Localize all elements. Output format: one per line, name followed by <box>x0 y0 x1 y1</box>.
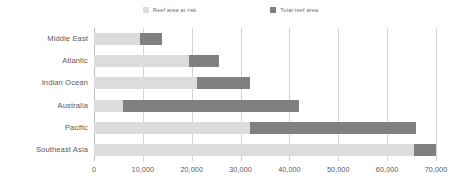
x-axis-tick-label: 20,000 <box>180 165 203 174</box>
legend-label: Reef area at risk <box>153 7 197 13</box>
bar-group <box>94 72 436 94</box>
bar-reef-area-at-risk[interactable] <box>94 55 189 67</box>
legend-swatch-icon <box>143 7 149 13</box>
bar-group <box>94 50 436 72</box>
x-axis-tick-label: 60,000 <box>376 165 399 174</box>
y-axis-labels: Middle EastAtlanticIndian OceanAustralia… <box>0 28 88 161</box>
x-axis-tick-label: 40,000 <box>278 165 301 174</box>
bar-reef-area-at-risk[interactable] <box>94 77 197 89</box>
legend-item-reef-area-at-risk[interactable]: Reef area at risk <box>143 7 197 13</box>
y-axis-tick-label: Indian Ocean <box>42 78 88 87</box>
bar-reef-area-at-risk[interactable] <box>94 100 123 112</box>
x-axis-tick-label: 50,000 <box>327 165 350 174</box>
x-axis-tick-label: 30,000 <box>229 165 252 174</box>
y-axis-tick-label: Atlantic <box>62 56 88 65</box>
y-axis-tick-label: Pacific <box>65 123 88 132</box>
bar-group <box>94 139 436 161</box>
bar-reef-area-at-risk[interactable] <box>94 144 414 156</box>
legend-swatch-icon <box>270 7 276 13</box>
legend-item-total-reef-area[interactable]: Total reef area <box>270 7 318 13</box>
y-axis-tick-label: Southeast Asia <box>36 145 88 154</box>
bar-reef-area-at-risk[interactable] <box>94 122 250 134</box>
bar-group <box>94 95 436 117</box>
bar-chart: Reef area at risk Total reef area Middle… <box>0 0 461 192</box>
bar-group <box>94 117 436 139</box>
x-axis-tick-label: 10,000 <box>132 165 155 174</box>
bar-total-reef-area[interactable] <box>94 100 299 112</box>
bar-reef-area-at-risk[interactable] <box>94 33 140 45</box>
y-axis-tick-label: Australia <box>58 101 88 110</box>
y-axis-tick-label: Middle East <box>47 34 88 43</box>
x-axis-tick-label: 70,000 <box>425 165 448 174</box>
legend-label: Total reef area <box>280 7 318 13</box>
x-axis-labels: 010,00020,00030,00040,00050,00060,00070,… <box>94 161 436 185</box>
plot-area <box>94 28 436 161</box>
bar-group <box>94 28 436 50</box>
x-axis-tick-label: 0 <box>92 165 96 174</box>
chart-legend: Reef area at risk Total reef area <box>0 7 461 13</box>
gridline <box>436 28 437 161</box>
